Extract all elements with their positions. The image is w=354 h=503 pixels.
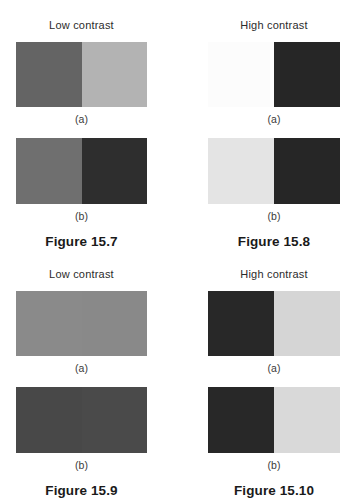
- left-gray-swatch: [208, 291, 274, 356]
- figure-15-8: High contrast (a) (b) Figure 15.8: [208, 18, 340, 249]
- contrast-type-label: High contrast: [240, 18, 307, 32]
- left-gray-swatch: [16, 42, 82, 107]
- left-gray-swatch: [208, 138, 274, 204]
- figure-15-7: Low contrast (a) (b) Figure 15.7: [16, 18, 147, 249]
- figure-caption: Figure 15.9: [45, 483, 117, 498]
- panel-label-a: (a): [268, 362, 281, 374]
- panel-image-a: [16, 42, 147, 107]
- panel-image-a: [16, 291, 147, 356]
- panel-image-b: [16, 138, 147, 204]
- panel-label-b: (b): [268, 210, 281, 222]
- panel-label-a: (a): [75, 362, 88, 374]
- figure-caption: Figure 15.7: [45, 234, 117, 249]
- right-gray-swatch: [274, 291, 340, 356]
- left-gray-swatch: [16, 138, 82, 204]
- right-gray-swatch: [82, 138, 148, 204]
- panel-label-b: (b): [268, 459, 281, 471]
- panel-image-a: [208, 42, 340, 107]
- left-gray-swatch: [16, 291, 82, 356]
- right-gray-swatch: [274, 138, 340, 204]
- right-gray-swatch: [82, 291, 148, 356]
- book-page: Low contrast (a) (b) Figure 15.7 High co…: [0, 0, 354, 503]
- contrast-type-label: Low contrast: [49, 18, 114, 32]
- contrast-type-label: High contrast: [240, 267, 307, 281]
- right-gray-swatch: [82, 387, 148, 453]
- right-gray-swatch: [274, 387, 340, 453]
- contrast-type-label: Low contrast: [49, 267, 114, 281]
- panel-image-b: [208, 138, 340, 204]
- panel-label-b: (b): [75, 210, 88, 222]
- figure-caption: Figure 15.8: [238, 234, 310, 249]
- right-gray-swatch: [274, 42, 340, 107]
- figure-caption: Figure 15.10: [234, 483, 314, 498]
- panel-image-b: [16, 387, 147, 453]
- right-gray-swatch: [82, 42, 148, 107]
- panel-label-a: (a): [268, 113, 281, 125]
- panel-label-a: (a): [75, 113, 88, 125]
- left-gray-swatch: [208, 387, 274, 453]
- panel-image-b: [208, 387, 340, 453]
- figure-15-9: Low contrast (a) (b) Figure 15.9: [16, 267, 147, 498]
- figure-15-10: High contrast (a) (b) Figure 15.10: [208, 267, 340, 498]
- panel-image-a: [208, 291, 340, 356]
- left-gray-swatch: [208, 42, 274, 107]
- panel-label-b: (b): [75, 459, 88, 471]
- left-gray-swatch: [16, 387, 82, 453]
